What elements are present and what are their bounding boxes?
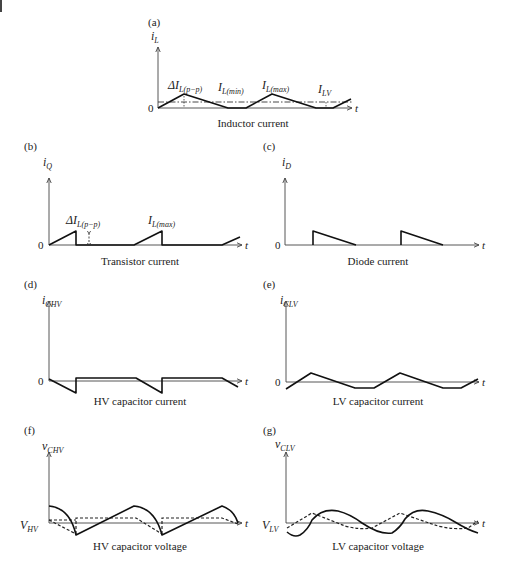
- hv-capacitor-current-waveform: [49, 378, 238, 393]
- annotation-delta-il: ΔIL(p−p): [65, 213, 101, 229]
- panel-caption: Diode current: [348, 255, 409, 267]
- x-axis-label: t: [245, 517, 249, 529]
- x-axis-label: t: [482, 376, 486, 388]
- panel-tag: (e): [263, 278, 276, 291]
- panel-tag: (c): [263, 140, 276, 153]
- x-axis-label: t: [245, 239, 249, 251]
- hv-capacitor-voltage-waveform: [49, 506, 238, 535]
- y-axis-label: iQ: [43, 155, 52, 171]
- zero-label: 0: [275, 239, 281, 251]
- panel-tag: (d): [24, 278, 37, 291]
- annotation-il-max: IL(max): [147, 213, 175, 229]
- panel-tag: (a): [148, 16, 161, 29]
- diode-current-pulse-1: [313, 231, 356, 245]
- panel-e-lv-capacitor-current: (e) iCLV 0 t LV capacitor current: [263, 278, 486, 407]
- panel-f-hv-capacitor-voltage: (f) vCHV VHV t HV capacitor voltage: [20, 424, 249, 552]
- panel-caption: LV capacitor voltage: [332, 540, 424, 552]
- y-axis-label: vCHV: [42, 439, 64, 455]
- panel-tag: (g): [263, 424, 276, 437]
- panel-tag: (b): [24, 140, 37, 153]
- zero-label: 0: [38, 239, 44, 251]
- annotation-il-min: IL(min): [217, 80, 244, 96]
- panel-b-transistor-current: (b) iQ 0 t ΔIL(p−p) IL(max) Transistor c…: [24, 140, 249, 267]
- annotation-delta-il: ΔIL(p−p): [167, 78, 203, 94]
- annotation-ilv: ILV: [317, 82, 332, 98]
- zero-label: 0: [275, 376, 281, 388]
- x-axis-label: t: [355, 102, 359, 114]
- panel-c-diode-current: (c) iD 0 t Diode current: [263, 140, 486, 267]
- y-axis-label: iL: [151, 29, 159, 45]
- zero-label: 0: [38, 375, 44, 387]
- panel-d-hv-capacitor-current: (d) iCHV 0 t HV capacitor current: [24, 278, 249, 407]
- x-axis-label: t: [482, 517, 486, 529]
- diode-current-pulse-2: [401, 231, 443, 245]
- annotation-il-max: IL(max): [261, 78, 289, 94]
- panel-caption: HV capacitor current: [94, 395, 187, 407]
- zero-label: 0: [148, 102, 154, 114]
- panel-tag: (f): [24, 424, 35, 437]
- lv-capacitor-current-waveform: [286, 373, 478, 389]
- panel-caption: Inductor current: [217, 117, 288, 129]
- dashed-component-trace: [162, 518, 238, 534]
- baseline-label: VHV: [20, 518, 39, 534]
- panel-g-lv-capacitor-voltage: (g) vCLV VLV t LV capacitor voltage: [262, 424, 486, 552]
- transistor-current-waveform: [49, 231, 240, 245]
- y-axis-label: vCLV: [275, 437, 296, 453]
- panel-caption: HV capacitor voltage: [93, 540, 187, 552]
- waveform-figure: (a) iL 0 t ΔIL(p−p) IL(min) IL(max) ILV …: [0, 0, 506, 570]
- y-axis-label: iCLV: [280, 293, 299, 309]
- baseline-label: VLV: [262, 518, 279, 534]
- panel-caption: Transistor current: [101, 255, 179, 267]
- x-axis-label: t: [245, 375, 249, 387]
- x-axis-label: t: [482, 239, 486, 251]
- dashed-component-trace: [76, 518, 162, 534]
- panel-caption: LV capacitor current: [333, 395, 423, 407]
- y-axis-label: iCHV: [42, 293, 62, 309]
- y-axis-label: iD: [282, 155, 291, 171]
- panel-a-inductor-current: (a) iL 0 t ΔIL(p−p) IL(min) IL(max) ILV …: [148, 16, 359, 129]
